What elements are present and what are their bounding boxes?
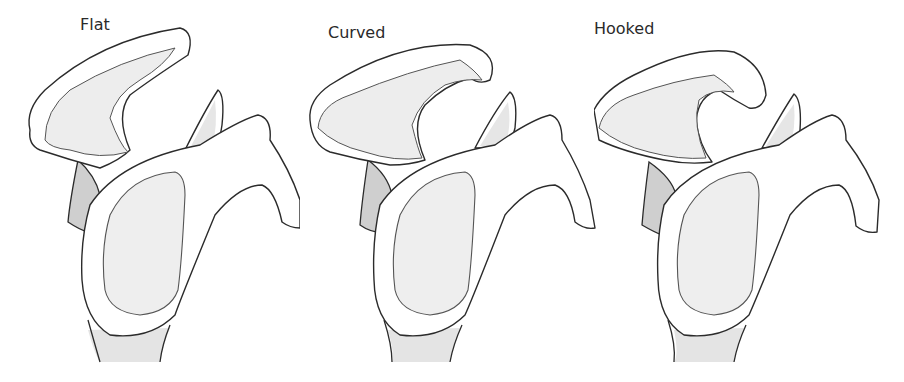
curved-acromion-illustration: Curved (300, 0, 600, 382)
panel-label-curved: Curved (328, 23, 385, 42)
panel-hooked: Hooked (594, 0, 904, 382)
panel-curved: Curved (300, 0, 600, 382)
acromion-types-figure: Flat Curved (0, 0, 904, 382)
panel-label-flat: Flat (80, 15, 110, 34)
hooked-acromion-illustration: Hooked (594, 0, 904, 382)
flat-acromion-illustration: Flat (0, 0, 300, 382)
panel-label-hooked: Hooked (594, 19, 654, 38)
panel-flat: Flat (0, 0, 300, 382)
